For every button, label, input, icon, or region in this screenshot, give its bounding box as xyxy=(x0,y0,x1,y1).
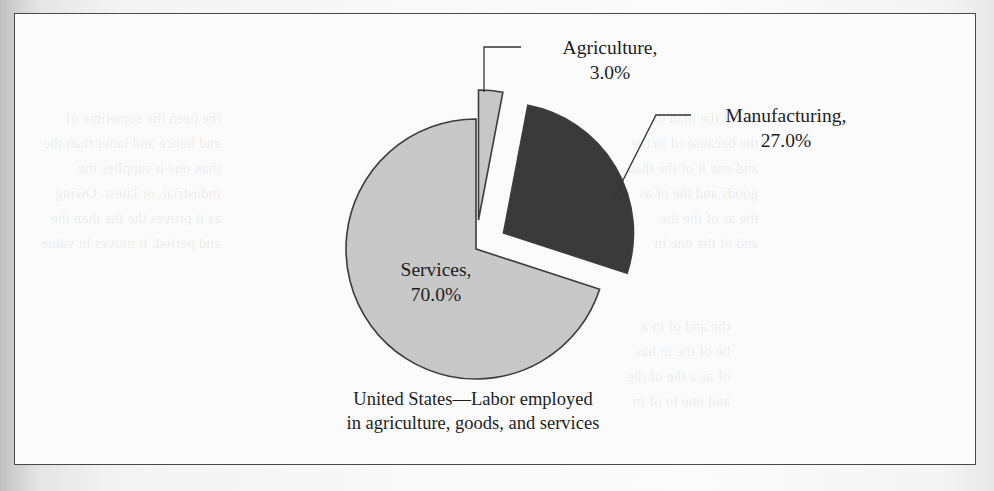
label-agriculture-line2: 3.0% xyxy=(590,62,631,83)
label-agriculture: Agriculture, 3.0% xyxy=(563,37,658,83)
leader-line-manufacturing xyxy=(615,115,691,196)
leader-line-agriculture xyxy=(484,47,521,92)
label-manufacturing-line1: Manufacturing, xyxy=(726,105,847,126)
label-services-line2: 70.0% xyxy=(411,284,461,305)
pie-slice-manufacturing[interactable] xyxy=(504,105,634,273)
pie-chart: Agriculture, 3.0% Manufacturing, 27.0% S… xyxy=(15,14,977,466)
figure-caption: United States—Labor employed in agricult… xyxy=(347,389,600,433)
caption-line-2: in agriculture, goods, and services xyxy=(347,413,600,433)
label-services-line1: Services, xyxy=(401,259,472,280)
scanned-page: the been the sometime of and hence and l… xyxy=(0,0,994,491)
pie-slice-agriculture[interactable] xyxy=(479,90,503,220)
label-agriculture-line1: Agriculture, xyxy=(563,37,658,58)
label-manufacturing-line2: 27.0% xyxy=(761,130,811,151)
caption-line-1: United States—Labor employed xyxy=(353,389,593,409)
figure-frame: the been the sometime of and hence and l… xyxy=(14,13,976,465)
label-manufacturing: Manufacturing, 27.0% xyxy=(726,105,847,151)
